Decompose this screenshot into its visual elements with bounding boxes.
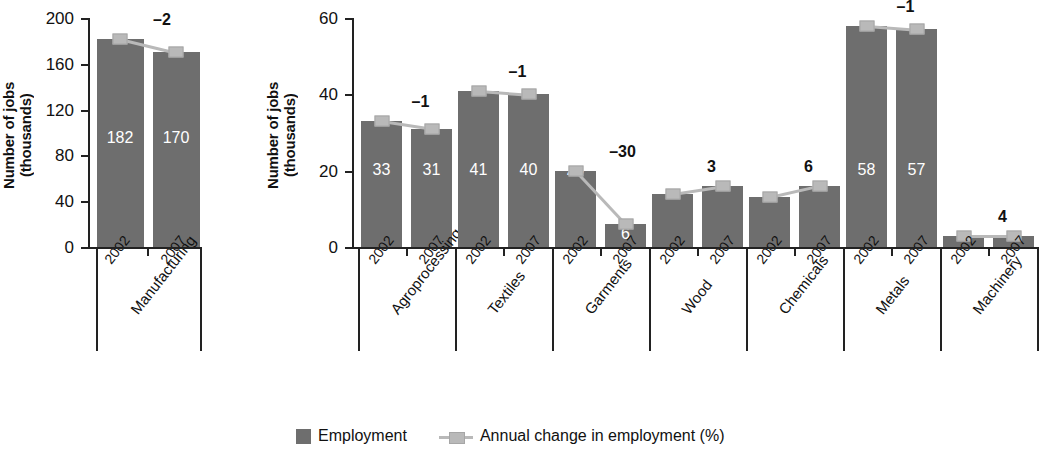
annual-change-marker (471, 85, 486, 96)
y-axis-label-left: Number of jobs (thousands) (0, 70, 34, 200)
annual-change-value-label: 3 (707, 158, 716, 176)
annual-change-marker (715, 180, 730, 191)
annual-change-value-label: –2 (153, 11, 171, 29)
annual-change-value-label: –1 (897, 0, 915, 16)
y-axis-tick (345, 247, 352, 249)
annual-change-marker (374, 116, 389, 127)
y-axis-tick-label: 0 (286, 238, 338, 258)
legend-item-annual-change: Annual change in employment (%) (439, 427, 725, 445)
annual-change-marker (618, 219, 633, 230)
bar-manufacturing-2007 (153, 52, 200, 247)
y-axis-tick (81, 18, 88, 20)
y-axis-tick-label: 200 (22, 9, 74, 29)
annual-change-marker (909, 24, 924, 35)
y-axis-line (88, 18, 90, 249)
chart-legend: Employment Annual change in employment (… (296, 427, 725, 445)
bar-value-label: 57 (908, 161, 926, 179)
bar-value-label: 14 (664, 161, 682, 179)
employment-chart-figure: Number of jobs (thousands) Number of job… (0, 0, 1040, 457)
annual-change-marker (762, 192, 777, 203)
group-center-tick (147, 249, 149, 256)
bar-agroprocessing-2002 (361, 121, 402, 247)
group-center-tick (794, 249, 796, 256)
legend-label-employment: Employment (318, 427, 407, 445)
annual-change-marker (424, 123, 439, 134)
bar-metals-2007 (896, 29, 937, 247)
bar-metals-2002 (846, 26, 887, 247)
y-axis-tick-label: 160 (22, 55, 74, 75)
y-axis-tick (81, 155, 88, 157)
y-axis-tick-label: 20 (286, 162, 338, 182)
annual-change-marker (521, 89, 536, 100)
y-axis-tick (345, 18, 352, 20)
y-axis-tick (81, 247, 88, 249)
legend-swatch-annual-change-icon (439, 430, 473, 443)
y-axis-tick-label: 120 (22, 101, 74, 121)
bar-value-label: 33 (373, 161, 391, 179)
y-axis-tick-label: 40 (22, 192, 74, 212)
annual-change-marker (665, 188, 680, 199)
group-center-tick (503, 249, 505, 256)
y-axis-tick (345, 171, 352, 173)
y-axis-tick (81, 201, 88, 203)
annual-change-value-label: 4 (998, 208, 1007, 226)
y-axis-line (352, 18, 354, 249)
bar-value-label: 170 (163, 129, 190, 147)
annual-change-value-label: –30 (609, 143, 636, 161)
bar-value-label: 58 (858, 161, 876, 179)
bar-value-label: 16 (811, 161, 829, 179)
bar-value-label: 40 (520, 161, 538, 179)
annual-change-value-label: –1 (509, 63, 527, 81)
legend-swatch-employment-icon (296, 429, 311, 444)
x-axis-baseline (88, 247, 200, 249)
annual-change-marker (568, 165, 583, 176)
y-axis-tick-label: 0 (22, 238, 74, 258)
bar-value-label: 13 (761, 161, 779, 179)
bar-value-label: 41 (470, 161, 488, 179)
bar-agroprocessing-2007 (411, 129, 452, 247)
annual-change-marker (812, 180, 827, 191)
annual-change-marker (859, 20, 874, 31)
legend-label-annual-change: Annual change in employment (%) (480, 427, 725, 445)
y-axis-tick-label: 40 (286, 85, 338, 105)
group-center-tick (600, 249, 602, 256)
bar-value-label: 31 (423, 161, 441, 179)
annual-change-marker (113, 33, 128, 44)
legend-item-employment: Employment (296, 427, 407, 445)
group-center-tick (406, 249, 408, 256)
annual-change-value-label: –1 (412, 93, 430, 111)
group-center-tick (988, 249, 990, 256)
group-center-tick (891, 249, 893, 256)
y-axis-tick (81, 110, 88, 112)
group-center-tick (697, 249, 699, 256)
bar-value-label: 182 (107, 129, 134, 147)
bar-value-label: 16 (714, 161, 732, 179)
y-axis-tick (81, 64, 88, 66)
annual-change-marker (169, 47, 184, 58)
annual-change-value-label: 6 (804, 158, 813, 176)
y-axis-tick (345, 94, 352, 96)
y-axis-tick-label: 60 (286, 9, 338, 29)
y-axis-tick-label: 80 (22, 146, 74, 166)
x-axis-baseline (352, 247, 1037, 249)
